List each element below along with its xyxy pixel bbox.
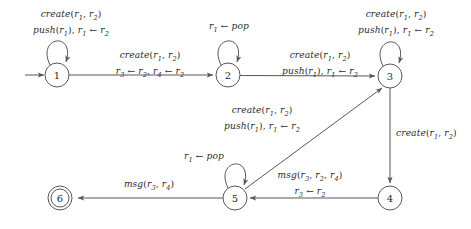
transition-label-edge-4-5-line2: r3 ← r2 (266, 185, 354, 201)
transition-label-edge-1-2-line2: r3 ← r2, r4 ← r2 (94, 65, 206, 81)
transition-loop-5-arc (225, 164, 246, 188)
state-label-5: 5 (232, 193, 238, 204)
transition-label-edge-5-3-line2: push(r1), r1 ← r2 (204, 120, 320, 136)
transition-label-edge-5-3-line1: create(r1, r2) (204, 104, 320, 120)
transition-label-edge-3-4: create(r1, r2) (396, 127, 471, 143)
transition-label-edge-1-2-line1: create(r1, r2) (94, 49, 206, 65)
transition-label-edge-2-3-line2: push(r1), r1 ← r2 (264, 65, 376, 81)
transition-loop-3-arc (380, 42, 401, 66)
state-label-1: 1 (54, 70, 60, 81)
transition-label-loop-1: create(r1, r2) push(r1), r1 ← r2 (16, 8, 126, 40)
state-label-4: 4 (387, 193, 393, 204)
state-node-1[interactable]: 1 (45, 63, 69, 87)
transition-label-edge-4-5-line1: msg(r3, r2, r4) (266, 169, 354, 185)
state-node-6-accepting[interactable]: 6 (48, 186, 72, 210)
transition-label-edge-5-6-line1: msg(r3, r4) (107, 178, 191, 194)
state-node-2[interactable]: 2 (216, 63, 240, 87)
transition-label-edge-4-5: msg(r3, r2, r4) r3 ← r2 (266, 169, 354, 201)
transition-label-edge-2-3: create(r1, r2) push(r1), r1 ← r2 (264, 49, 376, 81)
transition-label-edge-3-4-line1: create(r1, r2) (396, 127, 471, 143)
state-label-6: 6 (57, 193, 63, 204)
transition-label-loop-5-line1: r1 ← pop (169, 150, 239, 166)
transition-label-edge-5-6: msg(r3, r4) (107, 178, 191, 194)
transition-label-loop-1-line2: push(r1), r1 ← r2 (16, 24, 126, 40)
transition-label-loop-2-line1: r1 ← pop (194, 20, 264, 36)
transition-label-loop-3: create(r1, r2) push(r1), r1 ← r2 (339, 8, 453, 40)
transition-label-loop-5: r1 ← pop (169, 150, 239, 166)
state-diagram-canvas: 1 2 3 4 5 6 create(r1, r2) push(r1), r1 … (0, 0, 471, 229)
transition-loop-1-arc (47, 41, 68, 65)
transition-loop-2-arc (218, 41, 239, 65)
transition-label-loop-3-line2: push(r1), r1 ← r2 (339, 24, 453, 40)
transition-label-edge-1-2: create(r1, r2) r3 ← r2, r4 ← r2 (94, 49, 206, 81)
transition-label-edge-2-3-line1: create(r1, r2) (264, 49, 376, 65)
state-node-3[interactable]: 3 (378, 64, 402, 88)
transition-label-loop-3-line1: create(r1, r2) (339, 8, 453, 24)
state-label-2: 2 (225, 70, 231, 81)
state-node-4[interactable]: 4 (378, 186, 402, 210)
transition-label-loop-1-line1: create(r1, r2) (16, 8, 126, 24)
state-label-3: 3 (387, 71, 393, 82)
transition-label-loop-2: r1 ← pop (194, 20, 264, 36)
state-node-5[interactable]: 5 (223, 186, 247, 210)
transition-label-edge-5-3: create(r1, r2) push(r1), r1 ← r2 (204, 104, 320, 136)
